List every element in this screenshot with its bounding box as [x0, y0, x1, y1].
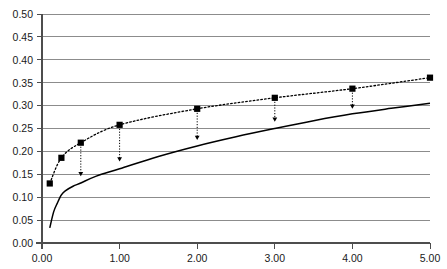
data-point-marker [78, 140, 84, 146]
x-tick-label: 4.00 [342, 252, 363, 264]
data-point-marker [47, 180, 53, 186]
y-tick-label: 0.35 [13, 77, 34, 89]
data-point-marker [427, 75, 433, 81]
data-point-marker [117, 122, 123, 128]
y-tick-label: 0.15 [13, 168, 34, 180]
y-tick-label: 0.05 [13, 214, 34, 226]
y-tick-label: 0.00 [13, 237, 34, 249]
y-tick-label: 0.30 [13, 99, 34, 111]
y-tick-label: 0.40 [13, 54, 34, 66]
chart-background [0, 0, 447, 269]
chart-container: 0.000.050.100.150.200.250.300.350.400.45… [0, 0, 447, 269]
line-chart: 0.000.050.100.150.200.250.300.350.400.45… [0, 0, 447, 269]
x-tick-label: 1.00 [109, 252, 130, 264]
y-tick-label: 0.25 [13, 122, 34, 134]
data-point-marker [58, 155, 64, 161]
x-tick-label: 2.00 [187, 252, 208, 264]
data-point-marker [349, 86, 355, 92]
y-tick-label: 0.10 [13, 191, 34, 203]
data-point-marker [272, 95, 278, 101]
x-tick-label: 5.00 [420, 252, 441, 264]
y-tick-label: 0.45 [13, 31, 34, 43]
x-tick-label: 3.00 [265, 252, 286, 264]
data-point-marker [194, 106, 200, 112]
y-tick-label: 0.20 [13, 145, 34, 157]
y-tick-label: 0.50 [13, 8, 34, 20]
x-tick-label: 0.00 [32, 252, 53, 264]
